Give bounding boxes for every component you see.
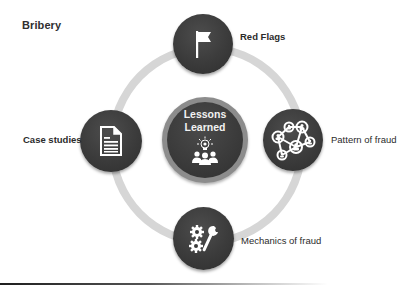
gears-wrench-icon — [187, 223, 221, 255]
center-title-line1: Lessons — [184, 108, 227, 121]
node-mechanics-of-fraud — [173, 207, 234, 270]
center-lessons-learned: Lessons Learned — [162, 97, 248, 183]
center-title-line2: Learned — [185, 121, 226, 134]
lightbulb-team-icon — [190, 136, 220, 166]
node-pattern-of-fraud — [263, 109, 323, 171]
node-red-flags — [173, 14, 233, 74]
network-people-icon — [269, 117, 317, 163]
label-red-flags: Red Flags — [240, 31, 285, 42]
node-case-studies — [80, 110, 142, 172]
label-pattern-of-fraud: Pattern of fraud — [331, 134, 396, 145]
label-mechanics-of-fraud: Mechanics of fraud — [241, 235, 321, 246]
label-case-studies: Case studies — [23, 134, 82, 145]
diagram-title: Bribery — [22, 19, 61, 31]
document-icon — [98, 125, 124, 157]
bottom-divider-line — [0, 283, 420, 285]
flag-icon — [188, 27, 218, 61]
